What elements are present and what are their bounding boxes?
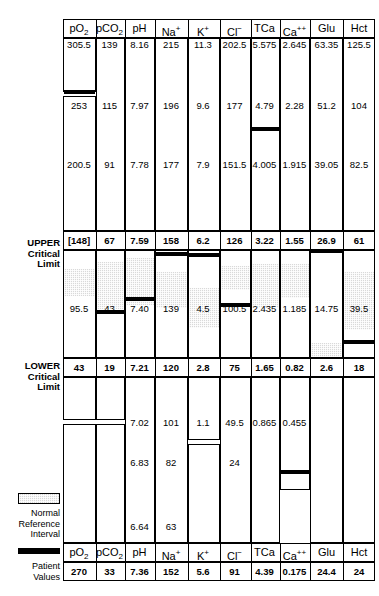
nri-value-Glu: 14.75 bbox=[310, 304, 343, 314]
column-footer-header-Na: Na+ bbox=[155, 544, 187, 565]
lower-tick-pH-2: 6.64 bbox=[124, 522, 155, 532]
patient-value-Na: 152 bbox=[155, 567, 187, 577]
column-header-pCO2: pCO2 bbox=[95, 20, 124, 41]
scale-tick-Ca-1: 2.28 bbox=[279, 101, 310, 111]
scale-tick-Glu-1: 51.2 bbox=[310, 101, 343, 111]
lower-tick-TCa-0: 0.865 bbox=[250, 418, 279, 428]
patient-value-Glu: 24.4 bbox=[310, 567, 343, 577]
nri-value-Hct: 39.5 bbox=[343, 304, 375, 314]
lower-critical-pH: 7.21 bbox=[124, 363, 155, 373]
column-footer-header-Ca: Ca++ bbox=[279, 544, 310, 565]
nri-value-Ca: 1.185 bbox=[279, 304, 310, 314]
column-footer-header-TCa: TCa bbox=[250, 544, 279, 561]
scale-tick-pO2-1: 253 bbox=[63, 101, 95, 111]
scale-tick-TCa-0: 5.575 bbox=[250, 40, 279, 50]
lower-tick-K-0: 1.1 bbox=[187, 418, 219, 428]
upper-critical-Glu: 26.9 bbox=[310, 236, 343, 246]
column-header-Glu: Glu bbox=[310, 20, 343, 37]
upper-critical-pO2: [148] bbox=[63, 236, 95, 246]
scale-tick-Glu-2: 39.05 bbox=[310, 160, 343, 170]
scale-tick-TCa-1: 4.79 bbox=[250, 101, 279, 111]
scale-tick-pH-1: 7.97 bbox=[124, 101, 155, 111]
scale-tick-pCO2-0: 139 bbox=[95, 40, 124, 50]
upper-critical-Hct: 61 bbox=[343, 236, 375, 246]
nri-value-pH: 7.40 bbox=[124, 304, 155, 314]
upper-critical-TCa: 3.22 bbox=[250, 236, 279, 246]
lower-critical-pO2: 43 bbox=[63, 363, 95, 373]
lower-tick-Cl-0: 49.5 bbox=[219, 418, 250, 428]
lower-critical-Na: 120 bbox=[155, 363, 187, 373]
lower-tick-Na-2: 63 bbox=[155, 522, 187, 532]
upper-critical-pH: 7.59 bbox=[124, 236, 155, 246]
lower-tick-pH-0: 7.02 bbox=[124, 418, 155, 428]
scale-tick-Na-0: 215 bbox=[155, 40, 187, 50]
scale-tick-pO2-0: 305.5 bbox=[63, 40, 95, 50]
nri-value-K: 4.5 bbox=[187, 304, 219, 314]
upper-critical-K: 6.2 bbox=[187, 236, 219, 246]
patient-value-TCa: 4.39 bbox=[250, 567, 279, 577]
lower-critical-Ca: 0.82 bbox=[279, 363, 310, 373]
patient-value-K: 5.6 bbox=[187, 567, 219, 577]
patient-value-pO2: 270 bbox=[63, 567, 95, 577]
upper-critical-Cl: 126 bbox=[219, 236, 250, 246]
lower-critical-TCa: 1.65 bbox=[250, 363, 279, 373]
patient-value-Hct: 24 bbox=[343, 567, 375, 577]
critical-limits-chart: UPPERCriticalLimit LOWERCriticalLimit No… bbox=[0, 0, 379, 596]
scale-tick-K-2: 7.9 bbox=[187, 160, 219, 170]
column-header-K: K+ bbox=[187, 20, 219, 41]
patient-value-pH: 7.36 bbox=[124, 567, 155, 577]
upper-critical-Na: 158 bbox=[155, 236, 187, 246]
lower-tick-Na-1: 82 bbox=[155, 458, 187, 468]
upper-critical-pCO2: 67 bbox=[95, 236, 124, 246]
column-footer-header-pCO2: pCO2 bbox=[95, 544, 124, 565]
column-footer-header-K: K+ bbox=[187, 544, 219, 565]
column-header-Cl: Cl− bbox=[219, 20, 250, 41]
lower-critical-Glu: 2.6 bbox=[310, 363, 343, 373]
lower-tick-pH-1: 6.83 bbox=[124, 458, 155, 468]
scale-tick-Cl-0: 202.5 bbox=[219, 40, 250, 50]
scale-tick-Ca-2: 1.915 bbox=[279, 160, 310, 170]
patient-value-pCO2: 33 bbox=[95, 567, 124, 577]
lower-critical-Hct: 18 bbox=[343, 363, 375, 373]
lower-critical-Cl: 75 bbox=[219, 363, 250, 373]
patient-value-Ca: 0.175 bbox=[279, 567, 310, 577]
column-footer-header-Hct: Hct bbox=[343, 544, 375, 561]
scale-tick-Na-2: 177 bbox=[155, 160, 187, 170]
scale-tick-pH-2: 7.78 bbox=[124, 160, 155, 170]
scale-tick-Hct-1: 104 bbox=[343, 101, 375, 111]
lower-tick-Na-0: 101 bbox=[155, 418, 187, 428]
nri-value-TCa: 2.435 bbox=[250, 304, 279, 314]
column-footer-header-Glu: Glu bbox=[310, 544, 343, 561]
scale-tick-K-0: 11.3 bbox=[187, 40, 219, 50]
lower-tick-Ca-0: 0.455 bbox=[279, 418, 310, 428]
scale-tick-K-1: 9.6 bbox=[187, 101, 219, 111]
scale-tick-pO2-2: 200.5 bbox=[63, 160, 95, 170]
scale-tick-Glu-0: 63.35 bbox=[310, 40, 343, 50]
scale-tick-Cl-1: 177 bbox=[219, 101, 250, 111]
scale-tick-pCO2-1: 115 bbox=[95, 101, 124, 111]
column-header-TCa: TCa bbox=[250, 20, 279, 37]
column-header-pO2: pO2 bbox=[63, 20, 95, 41]
column-header-Ca: Ca++ bbox=[279, 20, 310, 41]
upper-critical-Ca: 1.55 bbox=[279, 236, 310, 246]
patient-value-Cl: 91 bbox=[219, 567, 250, 577]
scale-tick-Cl-2: 151.5 bbox=[219, 160, 250, 170]
column-footer-header-pO2: pO2 bbox=[63, 544, 95, 565]
lower-critical-K: 2.8 bbox=[187, 363, 219, 373]
scale-tick-Ca-0: 2.645 bbox=[279, 40, 310, 50]
lower-tick-Cl-1: 24 bbox=[219, 458, 250, 468]
nri-value-Cl: 100.5 bbox=[219, 304, 250, 314]
lower-critical-pCO2: 19 bbox=[95, 363, 124, 373]
column-footer-header-Cl: Cl− bbox=[219, 544, 250, 565]
scale-tick-TCa-2: 4.005 bbox=[250, 160, 279, 170]
nri-value-pCO2: 43 bbox=[95, 304, 124, 314]
column-header-pH: pH bbox=[124, 20, 155, 37]
nri-value-Na: 139 bbox=[155, 304, 187, 314]
scale-tick-pCO2-2: 91 bbox=[95, 160, 124, 170]
scale-tick-Hct-0: 125.5 bbox=[343, 40, 375, 50]
scale-tick-pH-0: 8.16 bbox=[124, 40, 155, 50]
scale-tick-Na-1: 196 bbox=[155, 101, 187, 111]
nri-value-pO2: 95.5 bbox=[63, 304, 95, 314]
scale-tick-Hct-2: 82.5 bbox=[343, 160, 375, 170]
column-footer-header-pH: pH bbox=[124, 544, 155, 561]
